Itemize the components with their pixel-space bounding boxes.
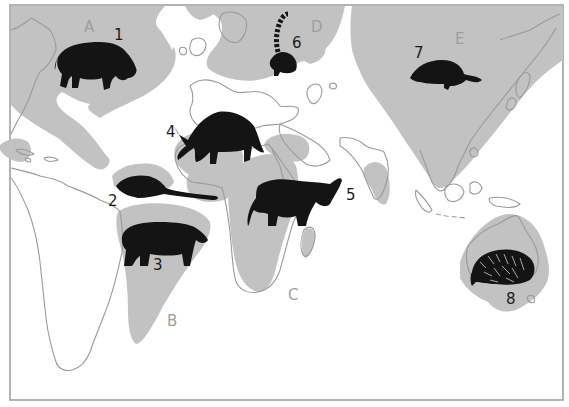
world-map: 1 2 3 4 5 6 7 8 A B C D E [0,0,569,407]
animal-label-1: 1 [114,26,124,44]
animal-label-3: 3 [153,256,163,274]
map-canvas: 1 2 3 4 5 6 7 8 A B C D E [0,0,569,407]
region-label-c: C [288,286,298,304]
animal-label-7: 7 [414,44,424,62]
region-label-a: A [84,18,95,36]
animal-label-2: 2 [108,192,118,210]
animal-label-6: 6 [292,34,302,52]
animal-label-4: 4 [166,123,176,141]
animal-label-5: 5 [346,186,356,204]
region-label-d: D [311,18,323,36]
region-label-e: E [455,30,464,48]
region-label-b: B [167,312,177,330]
animal-label-8: 8 [506,290,516,308]
